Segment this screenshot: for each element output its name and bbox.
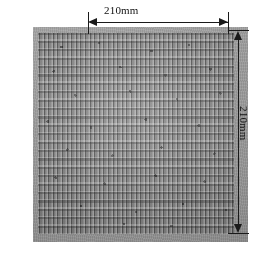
substrate-photograph <box>33 27 248 242</box>
width-dimension-label: 210mm <box>104 4 139 16</box>
height-dimension-label: 210mm <box>238 106 250 141</box>
honeycomb-shading <box>38 33 234 234</box>
height-extension-line-bottom <box>228 233 249 234</box>
honeycomb-block <box>38 33 234 234</box>
arrow-down-icon <box>234 224 242 233</box>
width-dimension-line <box>96 22 228 23</box>
figure-container: 210mm 210mm <box>0 0 276 256</box>
arrow-up-icon <box>234 31 242 40</box>
arrow-left-icon <box>88 18 97 26</box>
arrow-right-icon <box>219 18 228 26</box>
